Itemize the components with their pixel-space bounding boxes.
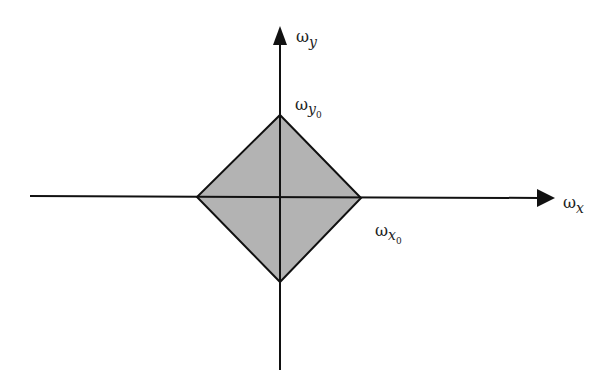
x-axis-arrowhead-icon [537, 189, 555, 207]
y-axis-arrowhead-icon [273, 26, 287, 45]
x-axis-label: ωx [563, 193, 584, 216]
diagram-canvas: ωy ωx ωy0 ωx0 [0, 0, 612, 387]
y-axis-label: ωy [296, 27, 318, 50]
x-axis [30, 196, 540, 198]
y-intercept-label: ωy0 [295, 95, 322, 120]
x-intercept-label: ωx0 [375, 221, 402, 246]
